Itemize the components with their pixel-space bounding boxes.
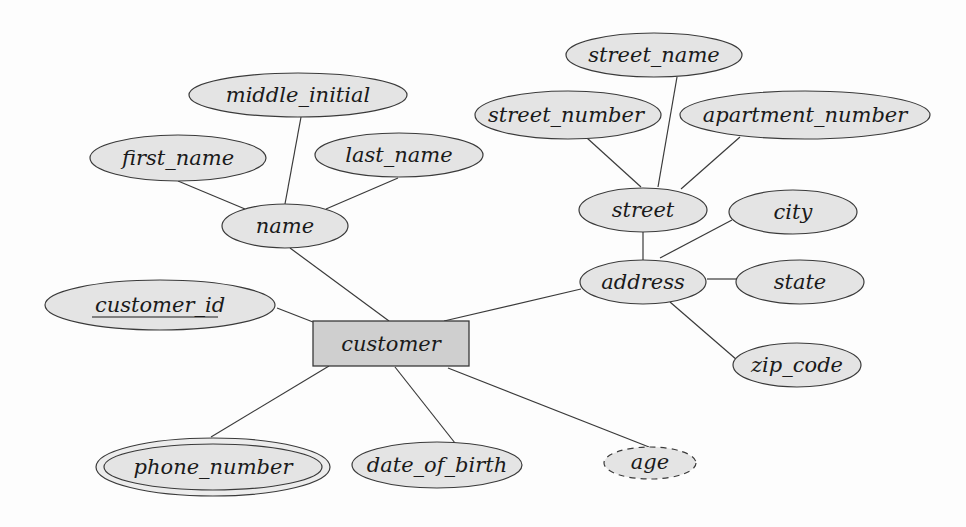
attribute-phone_number[interactable]: phone_number	[96, 438, 330, 496]
edge-customer-address	[444, 289, 581, 321]
entity-label: customer	[341, 332, 442, 356]
attribute-label: apartment_number	[703, 103, 910, 127]
attribute-label: customer_id	[95, 293, 225, 317]
attribute-label: phone_number	[134, 455, 295, 479]
attribute-age[interactable]: age	[604, 447, 696, 479]
attribute-middle_initial[interactable]: middle_initial	[189, 73, 407, 117]
edge-street-apartment_number	[681, 137, 740, 189]
er-diagram: middle_initial first_name last_name name…	[0, 0, 966, 527]
attribute-label: street_number	[488, 103, 646, 127]
edge-street-street_number	[587, 138, 641, 187]
edge-customer-date_of_birth	[395, 367, 455, 443]
attribute-zip_code[interactable]: zip_code	[733, 343, 861, 387]
edge-street-street_name	[658, 77, 677, 187]
edge-name-middle_initial	[285, 117, 301, 204]
attribute-label: zip_code	[750, 353, 843, 377]
edge-customer-customer_id	[277, 308, 313, 322]
edge-customer-age	[448, 368, 649, 447]
attribute-label: middle_initial	[226, 83, 371, 107]
attribute-label: last_name	[345, 143, 452, 167]
attribute-apartment_number[interactable]: apartment_number	[680, 91, 930, 139]
attribute-label: state	[774, 270, 827, 294]
attribute-label: address	[601, 270, 685, 294]
attribute-label: street_name	[588, 43, 719, 67]
attribute-state[interactable]: state	[736, 260, 864, 304]
attribute-label: name	[256, 214, 314, 238]
attribute-label: city	[774, 200, 814, 224]
attribute-first_name[interactable]: first_name	[90, 135, 266, 181]
attribute-last_name[interactable]: last_name	[315, 133, 483, 177]
attribute-customer_id[interactable]: customer_id	[45, 280, 275, 330]
attribute-label: date_of_birth	[367, 453, 507, 477]
edge-customer-phone_number	[211, 366, 329, 437]
edge-name-last_name	[326, 178, 398, 209]
attribute-street_number[interactable]: street_number	[475, 91, 661, 139]
attribute-address[interactable]: address	[580, 260, 706, 304]
edge-customer-name	[290, 248, 389, 321]
attribute-name[interactable]: name	[222, 204, 348, 248]
er-diagram-canvas: middle_initial first_name last_name name…	[0, 0, 966, 527]
attribute-city[interactable]: city	[729, 190, 857, 234]
attribute-label: age	[631, 450, 669, 474]
edge-name-first_name	[178, 181, 245, 209]
edge-address-zip_code	[670, 302, 737, 360]
attribute-street[interactable]: street	[579, 188, 707, 232]
attribute-street_name[interactable]: street_name	[566, 33, 742, 77]
entity-customer[interactable]: customer	[313, 321, 469, 366]
attribute-label: street	[612, 198, 675, 222]
attribute-label: first_name	[120, 146, 234, 170]
attribute-date_of_birth[interactable]: date_of_birth	[352, 442, 522, 488]
